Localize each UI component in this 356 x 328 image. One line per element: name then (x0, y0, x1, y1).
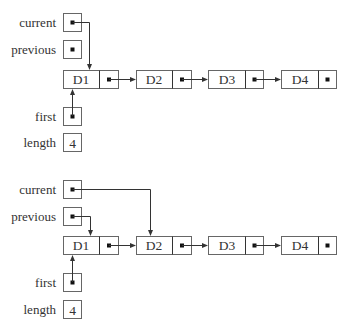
label-previous: previous (11, 209, 56, 224)
previous-pointer (64, 41, 82, 59)
arrow-head-icon (70, 89, 75, 95)
node-data: D3 (219, 238, 236, 253)
node-d3: D3 (209, 71, 282, 89)
node-d4: D4 (282, 237, 337, 255)
null-pointer-dot-icon (326, 244, 330, 248)
node-d4: D4 (282, 71, 337, 89)
node-data: D1 (73, 238, 90, 253)
label-first: first (35, 109, 56, 124)
previous-pointer (64, 208, 94, 237)
diagram-before: current previous first length D1 (11, 14, 336, 152)
arrow-head-icon (88, 230, 93, 236)
length-field: 4 (64, 134, 82, 152)
label-current: current (19, 15, 56, 30)
length-field: 4 (64, 301, 82, 319)
label-length: length (24, 135, 57, 150)
arrow-head-icon (148, 230, 153, 236)
label-previous: previous (11, 42, 56, 57)
first-pointer (64, 89, 82, 126)
node-d1: D1 (64, 237, 137, 255)
arrow-head-icon (275, 243, 281, 248)
pointer-dot-icon (71, 48, 75, 52)
node-data: D3 (219, 72, 236, 87)
node-d3: D3 (209, 237, 282, 255)
node-data: D2 (146, 72, 163, 87)
label-length: length (24, 302, 57, 317)
label-current: current (19, 182, 56, 197)
diagram-after: current previous first length D1 (11, 181, 336, 319)
node-d1: D1 (64, 71, 137, 89)
arrow-head-icon (275, 77, 281, 82)
length-value: 4 (69, 136, 76, 151)
length-value: 4 (69, 303, 76, 318)
arrow-head-icon (70, 255, 75, 261)
arrow-head-icon (202, 243, 208, 248)
node-data: D4 (292, 238, 309, 253)
arrow-head-icon (130, 243, 136, 248)
arrow-head-icon (130, 77, 136, 82)
node-data: D4 (292, 72, 309, 87)
label-first: first (35, 275, 56, 290)
node-d2: D2 (137, 237, 209, 255)
first-pointer (64, 255, 82, 292)
arrow-head-icon (202, 77, 208, 82)
arrow-head-icon (87, 64, 92, 70)
node-d2: D2 (137, 71, 209, 89)
null-pointer-dot-icon (326, 78, 330, 82)
node-data: D1 (73, 72, 90, 87)
node-data: D2 (146, 238, 163, 253)
linked-list-diagram: current previous first length D1 (0, 0, 356, 328)
